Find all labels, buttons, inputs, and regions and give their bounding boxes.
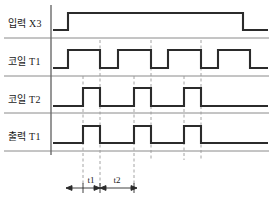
timing-diagram-canvas: 입력 X3 코일 T1 코일 T2 출력 T1 <box>0 0 273 207</box>
signal-row-coil-t2: 코일 T2 <box>8 88 268 106</box>
waveform-coil-t1 <box>53 50 268 68</box>
signal-row-input-x3: 입력 X3 <box>8 13 268 30</box>
timing-diagram: 입력 X3 코일 T1 코일 T2 출력 T1 <box>0 0 273 207</box>
waveform-input-x3 <box>53 13 268 30</box>
dimension-arrow-left <box>66 186 72 191</box>
signal-row-output-t1: 출력 T1 <box>8 126 268 143</box>
signal-label-coil-t1: 코일 T1 <box>8 56 41 67</box>
waveform-coil-t2 <box>53 88 268 106</box>
signal-label-input-x3: 입력 X3 <box>8 17 42 29</box>
interval-label-t2: t2 <box>113 175 120 185</box>
signal-label-coil-t2: 코일 T2 <box>8 94 41 105</box>
dimension-arrow-mid-right <box>100 186 106 191</box>
signal-row-coil-t1: 코일 T1 <box>8 50 268 68</box>
waveform-output-t1 <box>53 126 268 143</box>
interval-annotations: t1 t2 <box>66 175 137 193</box>
interval-label-t1: t1 <box>87 175 94 185</box>
signal-label-output-t1: 출력 T1 <box>8 131 41 142</box>
row-separators <box>4 38 269 151</box>
